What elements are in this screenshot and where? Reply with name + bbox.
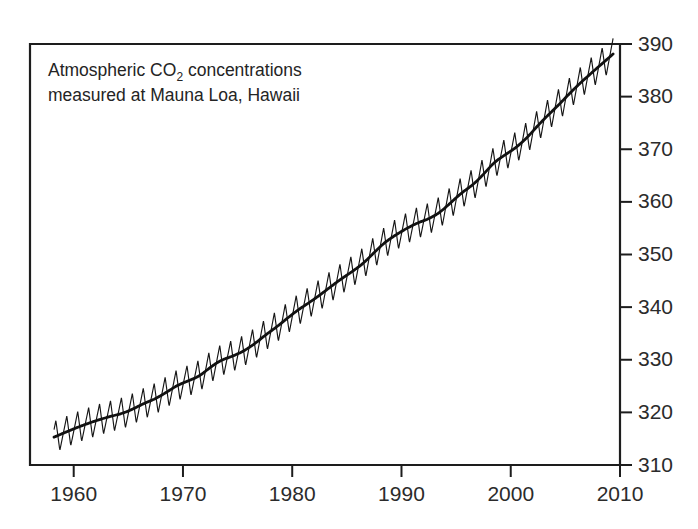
y-tick-label: 380 [638,84,673,107]
annotation-line-2: measured at Mauna Loa, Hawaii [48,85,300,105]
x-tick-label: 2010 [597,482,644,505]
x-tick-label: 1960 [50,482,97,505]
x-tick-label: 1990 [378,482,425,505]
y-tick-label: 350 [638,242,673,265]
y-tick-label: 340 [638,295,673,318]
y-tick-label: 330 [638,347,673,370]
x-tick-label: 1970 [160,482,207,505]
y-tick-label: 360 [638,189,673,212]
y-tick-label: 370 [638,137,673,160]
y-tick-label: 320 [638,400,673,423]
y-axis-tick-labels: 310320330340350360370380390 [638,32,673,476]
chart-canvas: 310320330340350360370380390 196019701980… [0,0,698,529]
y-tick-label: 310 [638,453,673,476]
x-tick-label: 2000 [487,482,534,505]
x-tick-label: 1980 [269,482,316,505]
co2-chart-figure: 310320330340350360370380390 196019701980… [0,0,698,529]
y-tick-label: 390 [638,32,673,55]
